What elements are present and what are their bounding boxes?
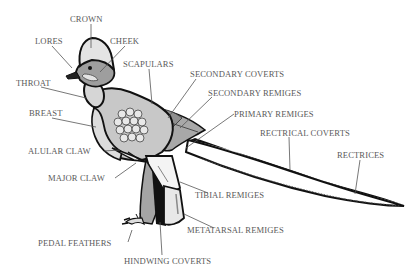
- label-tibial-remiges: TIBIAL REMIGES: [195, 190, 264, 200]
- label-rectrical-coverts: RECTRICAL COVERTS: [260, 128, 350, 138]
- label-primary-remiges: PRIMARY REMIGES: [234, 109, 314, 119]
- head: [66, 38, 114, 87]
- label-alular-claw: ALULAR CLAW: [28, 146, 91, 156]
- label-pedal-feathers: PEDAL FEATHERS: [38, 238, 111, 248]
- label-secondary-coverts: SECONDARY COVERTS: [190, 69, 284, 79]
- label-throat: THROAT: [16, 78, 51, 88]
- label-lores: LORES: [35, 36, 63, 46]
- label-hindwing-coverts: HINDWING COVERTS: [124, 256, 211, 266]
- label-secondary-remiges: SECONDARY REMIGES: [208, 88, 301, 98]
- bird-anatomy-diagram: CROWN LORES CHEEK SCAPULARS THROAT SECON…: [0, 0, 418, 280]
- label-metatarsal-remiges: METATARSAL REMIGES: [187, 225, 284, 235]
- label-rectrices: RECTRICES: [337, 150, 384, 160]
- label-scapulars: SCAPULARS: [123, 59, 174, 69]
- label-cheek: CHEEK: [110, 36, 139, 46]
- label-breast: BREAST: [29, 108, 63, 118]
- label-crown: CROWN: [70, 14, 103, 24]
- label-major-claw: MAJOR CLAW: [48, 173, 105, 183]
